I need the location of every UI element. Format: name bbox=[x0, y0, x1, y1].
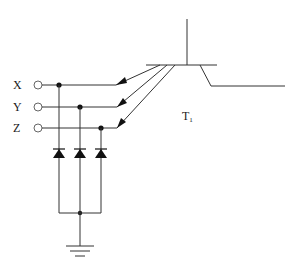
terminal-z-icon bbox=[34, 124, 42, 132]
transistor-t1 bbox=[116, 19, 285, 128]
emitter-3 bbox=[117, 65, 175, 128]
terminal-x-icon bbox=[34, 81, 42, 89]
input-label-x: X bbox=[13, 78, 22, 92]
transistor-label: T1 bbox=[182, 109, 193, 124]
input-label-y: Y bbox=[13, 100, 22, 114]
collector-lead bbox=[200, 65, 285, 86]
ground-icon bbox=[66, 213, 94, 256]
diode-z-icon bbox=[95, 149, 107, 158]
diode-y-icon bbox=[74, 149, 86, 158]
circuit-diagram: X Y Z bbox=[0, 0, 300, 269]
terminal-y-icon bbox=[34, 103, 42, 111]
emitter-arrow-1-icon bbox=[116, 77, 127, 85]
input-terminals bbox=[34, 81, 42, 132]
input-label-z: Z bbox=[13, 121, 20, 135]
diodes bbox=[53, 149, 107, 158]
diode-x-icon bbox=[53, 149, 65, 158]
